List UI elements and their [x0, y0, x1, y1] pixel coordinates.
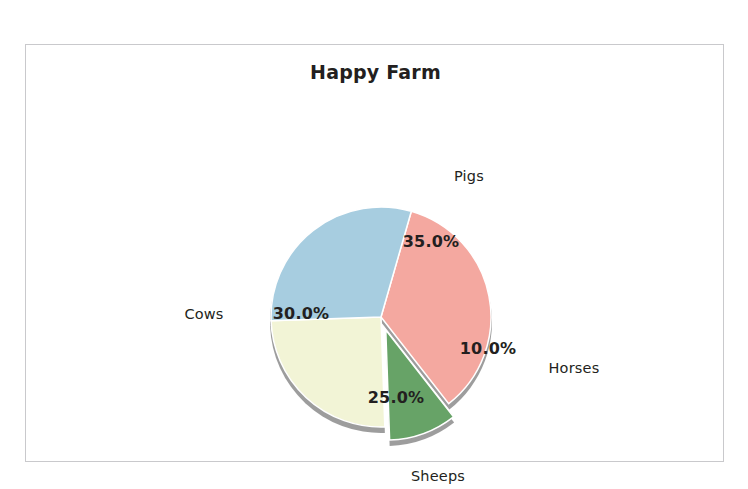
chart-frame: Happy Farm 35.0%10.0%25.0%30.0% PigsHors… [25, 44, 724, 462]
pie-category-label-horses: Horses [549, 360, 600, 376]
pie-value-label-cows: 30.0% [273, 304, 330, 323]
pie-value-label-horses: 10.0% [460, 339, 517, 358]
pie-value-label-sheeps: 25.0% [368, 388, 425, 407]
pie-slice-sheeps[interactable] [271, 317, 385, 427]
page-canvas: Happy Farm 35.0%10.0%25.0%30.0% PigsHors… [0, 0, 748, 489]
pie-value-label-pigs: 35.0% [403, 232, 460, 251]
pie-category-label-cows: Cows [184, 306, 223, 322]
pie-category-label-sheeps: Sheeps [411, 468, 465, 484]
pie-category-label-pigs: Pigs [454, 168, 484, 184]
